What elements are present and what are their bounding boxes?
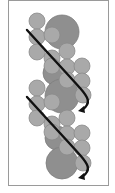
small-circle: [44, 94, 60, 110]
small-circle: [29, 13, 45, 29]
small-circle: [59, 110, 75, 126]
helix-diagram: [0, 0, 115, 193]
small-circle: [74, 58, 90, 74]
small-circle: [74, 73, 90, 89]
small-circle: [74, 125, 90, 141]
small-circle: [29, 80, 45, 96]
small-circle: [44, 58, 60, 74]
small-circle: [44, 27, 60, 43]
helix-figure: [0, 0, 115, 193]
small-circle: [59, 43, 75, 59]
small-circle: [74, 140, 90, 156]
